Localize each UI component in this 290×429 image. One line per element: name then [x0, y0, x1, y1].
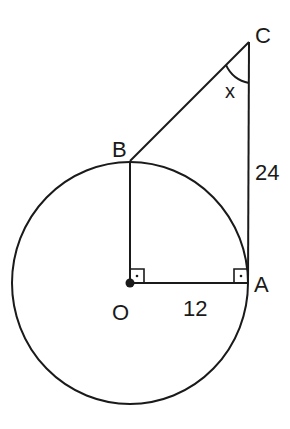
label-A: A [254, 272, 269, 297]
label-AC-length: 24 [255, 160, 279, 185]
geometry-diagram: C B A O 12 24 x [0, 0, 290, 429]
label-O: O [112, 300, 129, 325]
label-OA-length: 12 [183, 296, 207, 321]
center-point-O [126, 279, 135, 288]
right-angle-marker-A [234, 269, 248, 283]
label-angle-x: x [225, 80, 235, 102]
label-B: B [112, 137, 127, 162]
segment-AC [248, 42, 249, 283]
label-C: C [255, 23, 271, 48]
